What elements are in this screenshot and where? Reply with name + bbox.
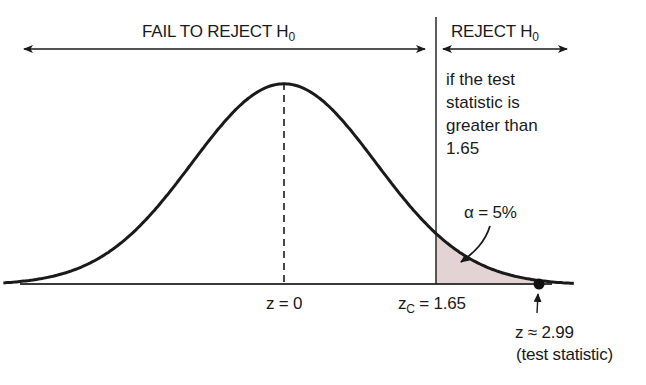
test-statistic-pointer-arrow [537, 294, 538, 313]
mean-label: z = 0 [266, 293, 302, 314]
rejection-rule-text: if the test statistic is greater than 1.… [446, 68, 538, 160]
alpha-label: α = 5% [464, 202, 517, 223]
h0-subscript: 0 [532, 30, 538, 44]
rule-line: if the test [446, 68, 538, 91]
reject-label: REJECT H0 [451, 21, 539, 48]
critical-value-label: zC = 1.65 [398, 293, 466, 320]
rule-line: statistic is [446, 91, 538, 114]
h0-subscript: 0 [288, 30, 294, 44]
rule-line: greater than [446, 114, 538, 137]
rejection-area-shading [436, 233, 574, 284]
fail-to-reject-label: FAIL TO REJECT H0 [142, 21, 295, 48]
fail-to-reject-text: FAIL TO REJECT H [142, 22, 288, 41]
test-statistic-value-label: z ≈ 2.99 [515, 322, 574, 343]
reject-text: REJECT H [451, 22, 532, 41]
rule-line: 1.65 [446, 137, 538, 160]
test-statistic-dot [534, 279, 545, 290]
crit-value: = 1.65 [415, 294, 466, 313]
hypothesis-test-diagram: FAIL TO REJECT H0 REJECT H0 if the test … [0, 0, 646, 385]
crit-subscript: C [406, 302, 414, 316]
test-statistic-note-label: (test statistic) [516, 344, 613, 365]
